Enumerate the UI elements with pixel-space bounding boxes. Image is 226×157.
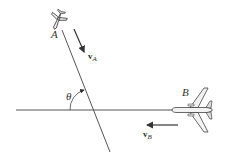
angle-arc: [70, 90, 84, 110]
theta-label: θ: [66, 90, 72, 102]
plane-b-label: B: [182, 86, 189, 98]
velocity-a-arrow: [74, 29, 84, 52]
relative-velocity-diagram: θ A vA B vB: [0, 0, 226, 157]
velocity-a-label: vA: [88, 51, 98, 63]
velocity-b-label: vB: [143, 129, 153, 141]
plane-a-label: A: [50, 28, 58, 40]
